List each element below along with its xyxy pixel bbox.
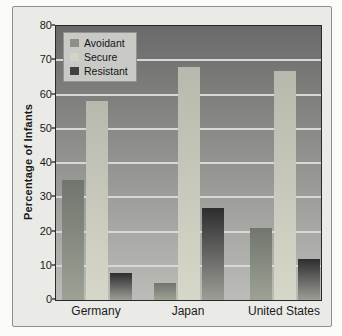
x-category-label-united-states: United States (229, 304, 339, 318)
legend-label-avoidant: Avoidant (84, 37, 125, 49)
y-tick-label-80: 80 (22, 19, 52, 32)
y-tick-label-10: 10 (22, 259, 52, 272)
legend-swatch-secure (70, 53, 79, 61)
legend-item-secure: Secure (70, 51, 128, 63)
legend-item-resistant: Resistant (70, 65, 128, 77)
y-tick-label-50: 50 (22, 122, 52, 135)
legend-label-resistant: Resistant (84, 65, 128, 77)
y-tick-label-60: 60 (22, 88, 52, 101)
bar-united-states-resistant (298, 259, 320, 300)
bar-japan-avoidant (154, 283, 176, 300)
figure-page: Percentage of Infants 01020304050607080 … (0, 0, 342, 336)
legend-swatch-avoidant (70, 39, 79, 47)
bar-germany-secure (86, 101, 108, 300)
bar-germany-resistant (110, 273, 132, 300)
y-tick-label-20: 20 (22, 225, 52, 238)
bar-united-states-secure (274, 71, 296, 300)
legend-label-secure: Secure (84, 51, 117, 63)
legend-swatch-resistant (70, 67, 79, 75)
legend-box: AvoidantSecureResistant (63, 32, 137, 82)
y-tick-label-70: 70 (22, 53, 52, 66)
y-tick-label-30: 30 (22, 190, 52, 203)
y-tick-label-40: 40 (22, 156, 52, 169)
bar-japan-resistant (202, 208, 224, 300)
bar-united-states-avoidant (250, 228, 272, 300)
plot-area: AvoidantSecureResistant (55, 25, 322, 301)
legend-item-avoidant: Avoidant (70, 37, 128, 49)
bar-germany-avoidant (62, 180, 84, 300)
x-category-label-japan: Japan (133, 304, 243, 318)
bar-japan-secure (178, 67, 200, 300)
